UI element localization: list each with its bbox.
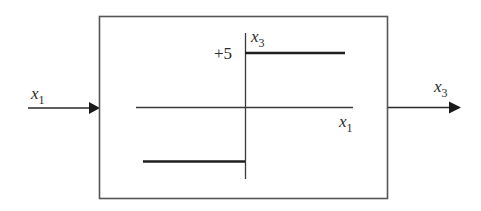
- vertical-axis-label: x3: [250, 27, 265, 50]
- input-signal: x1: [28, 84, 100, 114]
- block-diagram: x1 +5 x3 x1 x3: [0, 0, 481, 211]
- level-label: +5: [214, 44, 232, 63]
- input-label: x1: [30, 84, 45, 107]
- output-arrowhead-icon: [449, 102, 461, 114]
- input-arrowhead-icon: [89, 102, 100, 114]
- output-label: x3: [433, 77, 448, 100]
- step-characteristic-plot: +5 x3 x1: [136, 27, 353, 179]
- output-signal: x3: [388, 77, 461, 114]
- horizontal-axis-label: x1: [338, 112, 353, 135]
